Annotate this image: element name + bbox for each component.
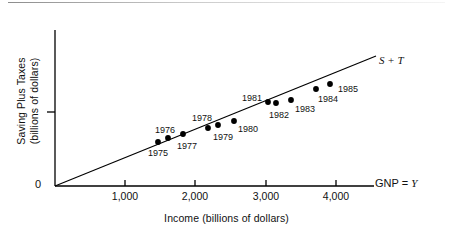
origin-label: 0 bbox=[35, 178, 41, 190]
y-axis-title-line1: Saving Plus Taxes bbox=[15, 57, 27, 144]
x-axis-title: Income (billions of dollars) bbox=[0, 212, 453, 224]
s-plus-t-curve-label: S + T bbox=[379, 54, 404, 66]
x-tick-label-1000: 1,000 bbox=[102, 190, 148, 202]
data-point-1985 bbox=[327, 81, 333, 87]
data-point-1979 bbox=[215, 122, 221, 128]
data-point-1977 bbox=[180, 131, 186, 137]
point-label-1983: 1983 bbox=[295, 104, 315, 114]
x-tick-label-2000: 2,000 bbox=[172, 190, 218, 202]
point-label-1982: 1982 bbox=[269, 110, 289, 120]
point-label-1976: 1976 bbox=[155, 125, 175, 135]
point-label-1977: 1977 bbox=[177, 141, 197, 151]
data-point-1976 bbox=[165, 135, 171, 141]
point-label-1975: 1975 bbox=[148, 148, 168, 158]
gnp-label-text: GNP = bbox=[375, 177, 411, 189]
point-label-1985: 1985 bbox=[338, 84, 358, 94]
data-point-1978 bbox=[205, 125, 211, 131]
data-point-1975 bbox=[155, 139, 161, 145]
data-point-1984 bbox=[313, 86, 319, 92]
gnp-equals-y-label: GNP = Y bbox=[375, 177, 417, 189]
x-tick-label-4000: 4,000 bbox=[313, 190, 359, 202]
chart-figure: Saving Plus Taxes (billions of dollars) … bbox=[0, 0, 453, 238]
point-label-1978: 1978 bbox=[192, 113, 212, 123]
point-label-1980: 1980 bbox=[238, 124, 258, 134]
point-label-1979: 1979 bbox=[213, 132, 233, 142]
y-axis-title: Saving Plus Taxes (billions of dollars) bbox=[15, 21, 41, 181]
point-label-1981: 1981 bbox=[242, 93, 262, 103]
point-label-1984: 1984 bbox=[318, 94, 338, 104]
data-point-1980 bbox=[231, 118, 237, 124]
data-point-1983 bbox=[288, 97, 294, 103]
s-plus-t-line bbox=[55, 56, 376, 186]
data-point-1982 bbox=[273, 100, 279, 106]
gnp-label-variable: Y bbox=[411, 177, 417, 189]
y-axis-title-line2: (billions of dollars) bbox=[28, 21, 41, 181]
data-point-1981 bbox=[265, 99, 271, 105]
x-tick-label-3000: 3,000 bbox=[243, 190, 289, 202]
scatter-plot-canvas bbox=[0, 0, 453, 238]
